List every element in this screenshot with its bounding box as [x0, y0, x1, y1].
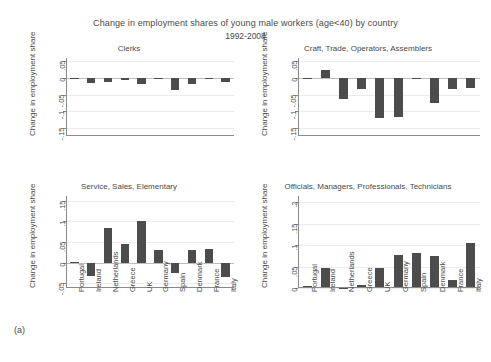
bar-uk	[137, 78, 145, 84]
y-tick-label: 0	[290, 288, 299, 292]
y-tick-label: .05	[58, 61, 67, 71]
bar-greece	[357, 78, 366, 89]
y-tick-label: .15	[58, 200, 67, 210]
x-axis-line	[66, 135, 234, 136]
bar-portugal	[70, 262, 78, 263]
y-tick-label: .1	[58, 221, 67, 227]
y-axis-title: Change in employment share	[260, 31, 269, 136]
category-label-denmark: Denmark	[438, 262, 447, 292]
plot-area: -.15-.1-.050.05	[298, 58, 480, 136]
gridline	[66, 61, 234, 62]
gridline	[66, 221, 234, 222]
bar-germany	[154, 78, 162, 79]
category-label-ireland: Ireland	[94, 269, 103, 292]
y-axis-title: Change in employment share	[28, 183, 37, 288]
y-tick-label: .2	[290, 202, 299, 208]
plot-area: -.15-.1-.050.05	[66, 58, 234, 136]
gridline	[298, 61, 480, 62]
bar-denmark	[430, 78, 439, 104]
bar-germany	[394, 78, 403, 117]
bar-france	[205, 249, 213, 262]
category-label-italy: Italy	[474, 278, 483, 292]
category-label-greece: Greece	[365, 267, 374, 292]
y-axis-title: Change in employment share	[28, 31, 37, 136]
y-tick-label: -.15	[58, 127, 67, 140]
category-label-ireland: Ireland	[328, 269, 337, 292]
bar-portugal	[303, 78, 312, 79]
y-tick-label: -.05	[58, 283, 67, 296]
figure-title: Change in employment shares of young mal…	[0, 18, 491, 28]
bar-france	[448, 78, 457, 89]
y-tick-label: -.15	[290, 127, 299, 140]
gridline	[298, 224, 480, 225]
panel-title: Craft, Trade, Operators, Assemblers	[252, 44, 484, 53]
panel-title: Officials, Managers, Professionals, Tech…	[252, 182, 484, 191]
category-label-portugal: Portugal	[77, 264, 86, 292]
y-axis-title: Change in employment share	[260, 183, 269, 288]
gridline	[66, 201, 234, 202]
category-label-italy: Italy	[229, 278, 238, 292]
chart-panel-4: Officials, Managers, Professionals, Tech…	[252, 182, 484, 290]
y-tick-label: 0	[58, 262, 67, 266]
y-tick-label: -.1	[58, 111, 67, 120]
figure-canvas: Change in employment shares of young mal…	[0, 0, 491, 362]
x-axis-line	[298, 135, 480, 136]
category-label-france: France	[456, 269, 465, 292]
gridline	[66, 128, 234, 129]
y-tick-label: .1	[290, 245, 299, 251]
plot-area: 0.05.1.15.2	[298, 196, 480, 288]
y-tick-label: .05	[290, 61, 299, 71]
gridline	[66, 242, 234, 243]
category-label-uk: UK	[383, 282, 392, 292]
panel-letter-label: (a)	[14, 325, 25, 335]
y-tick-label: .05	[290, 266, 299, 276]
bar-greece	[121, 244, 129, 263]
gridline	[298, 202, 480, 203]
bar-spain	[171, 78, 179, 90]
bar-italy	[466, 78, 475, 88]
y-tick-label: -.05	[58, 94, 67, 107]
category-label-spain: Spain	[419, 273, 428, 292]
gridline	[298, 95, 480, 96]
bar-ireland	[87, 78, 95, 83]
gridline	[298, 245, 480, 246]
bar-netherlands	[104, 78, 112, 82]
bar-netherlands	[339, 78, 348, 99]
category-label-portugal: Portugal	[310, 264, 319, 292]
bar-uk	[137, 221, 145, 262]
panel-title: Service, Sales, Elementary	[20, 182, 238, 191]
y-tick-label: .05	[58, 242, 67, 252]
bar-italy	[221, 263, 229, 277]
panel-title: Clerks	[20, 44, 238, 53]
plot-area: -.050.05.1.15	[66, 196, 234, 288]
chart-panel-3: Service, Sales, ElementaryChange in empl…	[20, 182, 238, 290]
bar-spain	[171, 263, 179, 274]
gridline	[298, 128, 480, 129]
category-label-germany: Germany	[161, 261, 170, 292]
bar-portugal	[70, 78, 78, 79]
y-tick-label: -.05	[290, 94, 299, 107]
figure-subtitle: 1992-2008	[0, 31, 491, 41]
category-label-spain: Spain	[178, 273, 187, 292]
bar-spain	[412, 78, 421, 79]
category-label-greece: Greece	[128, 267, 137, 292]
gridline	[298, 111, 480, 112]
category-label-france: France	[212, 269, 221, 292]
bar-greece	[121, 78, 129, 80]
category-label-denmark: Denmark	[195, 262, 204, 292]
bar-italy	[221, 78, 229, 82]
bar-uk	[375, 78, 384, 118]
chart-panel-1: ClerksChange in employment share-.15-.1-…	[20, 44, 238, 140]
category-label-netherlands: Netherlands	[347, 252, 356, 292]
gridline	[66, 95, 234, 96]
category-label-germany: Germany	[401, 261, 410, 292]
bar-france	[205, 78, 213, 79]
y-tick-label: .15	[290, 223, 299, 233]
gridline	[66, 111, 234, 112]
category-label-netherlands: Netherlands	[111, 252, 120, 292]
y-tick-label: 0	[58, 77, 67, 81]
y-tick-label: -.1	[290, 111, 299, 120]
category-label-uk: UK	[145, 282, 154, 292]
y-tick-label: 0	[290, 77, 299, 81]
bar-ireland	[321, 70, 330, 78]
